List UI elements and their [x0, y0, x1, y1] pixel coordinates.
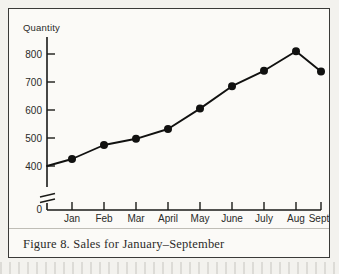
y-tick-label-500: 500: [25, 133, 42, 144]
data-point-jan: [68, 155, 76, 163]
data-point-feb: [100, 141, 108, 149]
axis-break-icon: [40, 194, 55, 203]
data-point-sept: [317, 67, 325, 75]
y-axis-title: Quantity: [23, 22, 60, 33]
data-point-april: [164, 125, 172, 133]
y-tick-label-400: 400: [25, 161, 42, 172]
chart-plot-area: 800 700 600 500 400 Quantity 0: [9, 9, 329, 227]
data-point-may: [196, 105, 204, 113]
x-tick-label-july: July: [255, 213, 273, 224]
caption-divider: [9, 228, 329, 229]
data-point-aug: [292, 47, 300, 55]
figure-caption: Figure 8. Sales for January–September: [23, 237, 323, 252]
data-series-markers: [68, 47, 325, 163]
y-tick-label-600: 600: [25, 105, 42, 116]
data-series-line: [47, 51, 321, 166]
figure-frame: 800 700 600 500 400 Quantity 0: [8, 8, 330, 258]
line-chart-svg: 800 700 600 500 400 Quantity 0: [9, 9, 329, 227]
y-tick-label-800: 800: [25, 49, 42, 60]
x-tick-label-mar: Mar: [127, 213, 145, 224]
x-axis-ticks: [72, 202, 321, 210]
y-axis-ticks: [47, 54, 55, 166]
x-tick-label-sept: Sept: [309, 213, 329, 224]
x-tick-label-april: April: [158, 213, 178, 224]
x-tick-label-aug: Aug: [287, 213, 305, 224]
y-axis-zero-label: 0: [36, 204, 42, 215]
x-tick-label-may: May: [191, 213, 210, 224]
data-point-july: [260, 67, 268, 75]
x-tick-label-jan: Jan: [64, 213, 80, 224]
x-tick-label-feb: Feb: [95, 213, 113, 224]
data-point-june: [228, 82, 236, 90]
data-point-mar: [132, 135, 140, 143]
x-tick-label-june: June: [221, 213, 243, 224]
y-tick-label-700: 700: [25, 77, 42, 88]
scan-artifact: [0, 262, 339, 274]
